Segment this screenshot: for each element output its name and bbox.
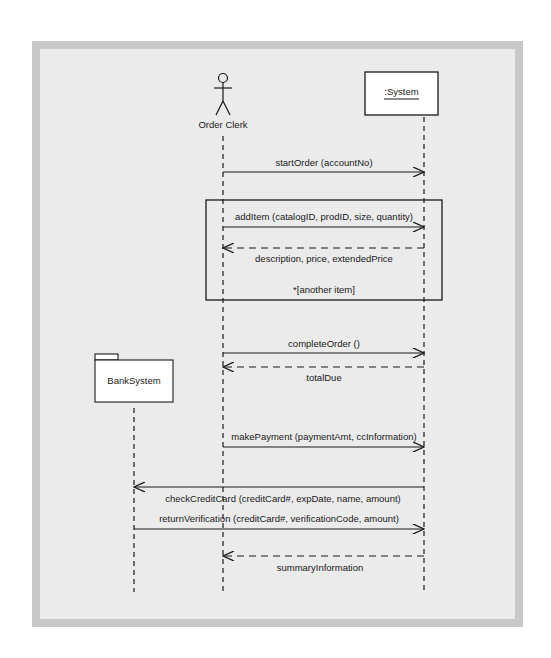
message-check-credit-card[interactable]: checkCreditCard (creditCard#, expDate, n… (134, 487, 424, 504)
message-label: returnVerification (creditCard#, verific… (159, 513, 399, 524)
message-start-order[interactable]: startOrder (accountNo) (223, 157, 424, 172)
message-label: addItem (catalogID, prodID, size, quanti… (235, 211, 413, 222)
message-label: checkCreditCard (creditCard#, expDate, n… (165, 493, 401, 504)
message-label: totalDue (306, 372, 341, 383)
actor-order-clerk[interactable]: Order Clerk (198, 74, 247, 131)
sequence-diagram: Order Clerk :System BankSystem *[another… (0, 0, 551, 658)
actor-label: Order Clerk (198, 119, 247, 130)
package-label: BankSystem (107, 375, 160, 386)
message-label: summaryInformation (277, 562, 364, 573)
loop-guard: *[another item] (293, 284, 355, 295)
object-system[interactable]: :System (365, 72, 438, 115)
message-make-payment[interactable]: makePayment (paymentAmt, ccInformation) (223, 431, 424, 447)
message-add-item[interactable]: addItem (catalogID, prodID, size, quanti… (223, 211, 424, 227)
package-bank-system[interactable]: BankSystem (95, 354, 173, 402)
package-tab (95, 354, 118, 360)
message-label: startOrder (accountNo) (275, 157, 372, 168)
message-return-item-details[interactable]: description, price, extendedPrice (223, 248, 424, 264)
message-label: description, price, extendedPrice (255, 253, 393, 264)
message-label: makePayment (paymentAmt, ccInformation) (231, 431, 416, 442)
message-return-summary-information[interactable]: summaryInformation (223, 556, 424, 573)
stick-figure-icon (214, 74, 232, 116)
messages: startOrder (accountNo) addItem (catalogI… (134, 157, 424, 573)
message-label: completeOrder () (288, 338, 360, 349)
object-label: :System (384, 86, 418, 97)
message-return-total-due[interactable]: totalDue (223, 367, 424, 383)
message-return-verification[interactable]: returnVerification (creditCard#, verific… (134, 513, 424, 529)
message-complete-order[interactable]: completeOrder () (223, 338, 424, 353)
